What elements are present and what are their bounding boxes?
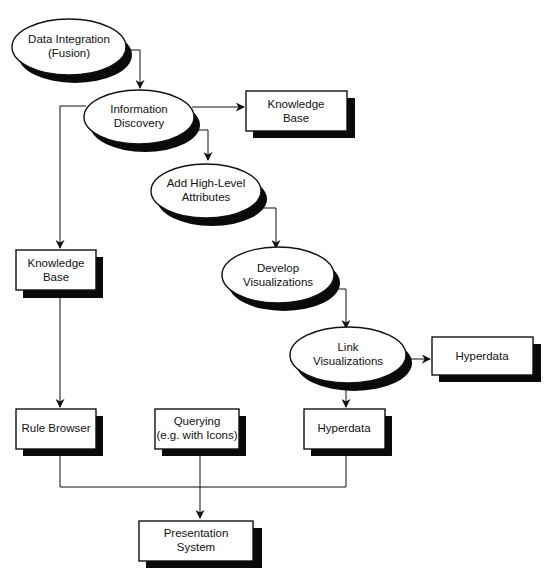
- node-knowledge-base-top: Knowledge Base: [246, 91, 355, 138]
- node-presentation-system: Presentation System: [139, 521, 262, 568]
- node-label: Base: [43, 271, 69, 283]
- node-label: Develop: [257, 262, 299, 274]
- node-label: Presentation: [164, 527, 229, 539]
- node-label: Base: [283, 112, 309, 124]
- node-label: Hyperdata: [317, 422, 371, 434]
- node-label: Link: [337, 341, 358, 353]
- node-label: Hyperdata: [455, 350, 509, 362]
- node-querying: Querying (e.g. with Icons): [155, 409, 246, 456]
- edge-develop-to-link: [336, 289, 346, 328]
- node-add-high-level-attributes: Add High-Level Attributes: [151, 164, 267, 226]
- node-label: (e.g. with Icons): [156, 429, 237, 441]
- node-label: Visualizations: [243, 276, 313, 288]
- node-develop-visualizations: Develop Visualizations: [222, 247, 340, 311]
- node-link-visualizations: Link Visualizations: [290, 327, 412, 391]
- node-label: Data Integration: [28, 33, 110, 45]
- diagram-svg: Data Integration (Fusion) Information Di…: [0, 0, 551, 577]
- node-label: Information: [110, 103, 168, 115]
- flowchart-diagram: Data Integration (Fusion) Information Di…: [0, 0, 551, 577]
- node-label: Discovery: [114, 117, 165, 129]
- node-hyperdata-right: Hyperdata: [432, 337, 541, 382]
- node-data-integration: Data Integration (Fusion): [12, 19, 132, 83]
- edge-rulebrowser-to-bus: [60, 456, 346, 487]
- node-knowledge-base-left: Knowledge Base: [16, 250, 103, 298]
- node-hyperdata-bottom: Hyperdata: [304, 409, 392, 456]
- node-label: Add High-Level: [167, 177, 246, 189]
- node-label: Rule Browser: [21, 422, 90, 434]
- node-label: Attributes: [182, 191, 231, 203]
- edge-discovery-to-kb-left: [60, 106, 86, 248]
- node-label: Knowledge: [28, 257, 85, 269]
- edge-highlevel-to-develop: [262, 208, 276, 248]
- node-label: Querying: [174, 415, 221, 427]
- node-label: Visualizations: [313, 355, 383, 367]
- node-label: System: [177, 541, 215, 553]
- node-label: (Fusion): [48, 47, 90, 59]
- node-label: Knowledge: [268, 98, 325, 110]
- node-rule-browser: Rule Browser: [16, 409, 103, 456]
- node-information-discovery: Information Discovery: [84, 90, 200, 152]
